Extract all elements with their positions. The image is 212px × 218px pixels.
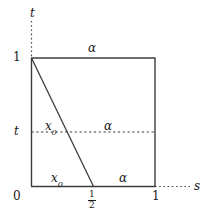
- region-label-x0-middle: x0: [45, 120, 57, 135]
- region-label-x0-middle-subscript: 0: [52, 128, 57, 137]
- region-label-alpha-bottom: α: [119, 172, 127, 184]
- region-label-alpha-top: α: [88, 42, 96, 54]
- partition-line: [32, 58, 94, 187]
- x-tick-label-one: 1: [152, 190, 160, 202]
- region-label-x0-middle-base: x: [45, 119, 52, 133]
- x-tick-label-half: 1 2: [88, 190, 96, 211]
- y-tick-label-t: t: [14, 125, 19, 137]
- x-tick-half-denominator: 2: [88, 201, 96, 210]
- plot-vector-layer: [0, 0, 212, 218]
- figure-canvas: t s 1 t 0 1 2 1 α x0 α x0 α: [0, 0, 212, 218]
- region-label-x0-bottom: x0: [51, 172, 63, 187]
- origin-label: 0: [13, 190, 21, 202]
- region-label-x0-bottom-subscript: 0: [58, 180, 63, 189]
- region-label-x0-bottom-base: x: [51, 171, 58, 185]
- region-label-alpha-middle: α: [104, 120, 112, 132]
- y-tick-label-one: 1: [13, 51, 21, 63]
- y-axis-label: t: [30, 7, 35, 19]
- x-axis-label: s: [194, 180, 200, 192]
- x-tick-half-numerator: 1: [88, 190, 96, 199]
